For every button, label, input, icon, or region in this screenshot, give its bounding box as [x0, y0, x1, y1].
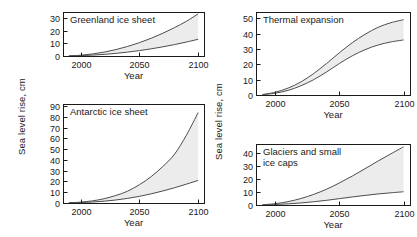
x-axis-label: Year — [124, 217, 143, 228]
y-tick-label: 30 — [243, 45, 253, 55]
y-tick-label: 0 — [248, 201, 253, 211]
y-tick-label: 50 — [243, 14, 253, 24]
x-tick-label: 2000 — [71, 207, 91, 217]
x-tick-label: 2100 — [394, 99, 414, 109]
x-tick-label: 2050 — [329, 99, 349, 109]
y-tick-label: 10 — [243, 76, 253, 86]
y-tick-label: 50 — [50, 145, 60, 155]
x-tick-label: 2000 — [265, 209, 285, 219]
panel-title: Thermal expansion — [263, 14, 344, 25]
y-tick-label: 40 — [50, 156, 60, 166]
x-axis-label: Year — [323, 109, 342, 120]
y-tick-label: 90 — [50, 102, 60, 112]
y-tick-label: 30 — [50, 167, 60, 177]
y-tick-label: 0 — [55, 199, 60, 209]
y-tick-label: 20 — [50, 177, 60, 187]
y-tick-label: 10 — [50, 39, 60, 49]
x-tick-label: 2100 — [188, 207, 208, 217]
y-tick-label: 70 — [50, 124, 60, 134]
panel-title: Glaciers and small — [263, 146, 341, 157]
y-tick-label: 40 — [243, 149, 253, 159]
y-tick-label: 20 — [243, 175, 253, 185]
y-tick-label: 20 — [243, 60, 253, 70]
panel-title: Antarctic ice sheet — [70, 106, 148, 117]
y-tick-label: 30 — [50, 14, 60, 24]
plot-greenland-ice-sheet: 0102030200020502100YearGreenland ice she… — [38, 4, 210, 80]
uncertainty-band — [262, 20, 403, 95]
y-tick-label: 40 — [243, 30, 253, 40]
uncertainty-band — [69, 113, 198, 203]
x-tick-label: 2050 — [129, 60, 149, 70]
y-tick-label: 30 — [243, 162, 253, 172]
y-axis-label-left: Sea level rise, cm — [16, 78, 27, 155]
x-tick-label: 2000 — [265, 99, 285, 109]
y-tick-label: 60 — [50, 134, 60, 144]
panel-title: Greenland ice sheet — [70, 14, 155, 25]
panel-antarctic-ice-sheet: 0102030405060708090200020502100YearAntar… — [38, 96, 210, 233]
x-tick-label: 2050 — [329, 209, 349, 219]
curve-lower-bound — [262, 40, 403, 95]
panel-greenland-ice-sheet: 0102030200020502100YearGreenland ice she… — [38, 4, 210, 80]
x-tick-label: 2000 — [71, 60, 91, 70]
plot-glaciers-small-ice-caps: 010203040200020502100YearGlaciers and sm… — [231, 136, 417, 233]
y-tick-label: 10 — [243, 188, 253, 198]
y-tick-label: 20 — [50, 27, 60, 37]
x-tick-label: 2100 — [394, 209, 414, 219]
x-tick-label: 2100 — [188, 60, 208, 70]
y-tick-label: 0 — [55, 52, 60, 62]
y-tick-label: 10 — [50, 188, 60, 198]
panel-thermal-expansion: 01020304050200020502100YearThermal expan… — [231, 4, 417, 126]
y-axis-label-right: Sea level rise, cm — [213, 83, 224, 160]
x-axis-label: Year — [124, 70, 143, 80]
x-axis-label: Year — [323, 219, 342, 230]
x-tick-label: 2050 — [129, 207, 149, 217]
y-tick-label: 0 — [248, 91, 253, 101]
plot-antarctic-ice-sheet: 0102030405060708090200020502100YearAntar… — [38, 96, 210, 233]
sea-level-rise-figure: Sea level rise, cm Sea level rise, cm 01… — [0, 0, 417, 237]
y-tick-label: 80 — [50, 113, 60, 123]
panel-glaciers-small-ice-caps: 010203040200020502100YearGlaciers and sm… — [231, 136, 417, 233]
plot-thermal-expansion: 01020304050200020502100YearThermal expan… — [231, 4, 417, 126]
panel-title: ice caps — [263, 157, 298, 168]
